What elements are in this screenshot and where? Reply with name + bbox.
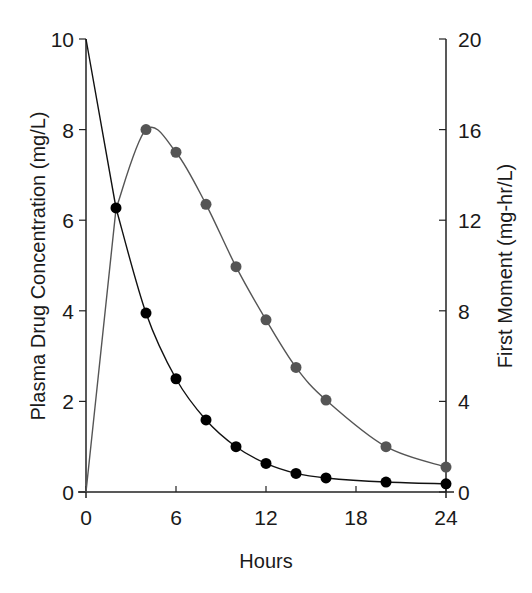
y-axis-title: Plasma Drug Concentration (mg/L) — [27, 111, 49, 420]
x-tick-label: 24 — [434, 506, 458, 529]
x-tick-label: 12 — [254, 506, 277, 529]
curves — [86, 39, 446, 492]
first-moment-point — [321, 395, 332, 406]
first-moment-point — [261, 314, 272, 325]
data-markers — [111, 124, 452, 489]
concentration-point — [321, 472, 332, 483]
x-tick-label: 6 — [170, 506, 182, 529]
first-moment-point — [141, 124, 152, 135]
concentration-point — [381, 477, 392, 488]
y2-tick-label: 0 — [458, 481, 470, 504]
y-tick-label: 0 — [62, 481, 74, 504]
concentration-point — [291, 468, 302, 479]
axes — [78, 39, 454, 498]
first-moment-point — [381, 441, 392, 452]
concentration-point — [111, 202, 122, 213]
concentration-point — [141, 308, 152, 319]
x-tick-label: 18 — [344, 506, 367, 529]
concentration-curve — [86, 39, 446, 484]
first-moment-point — [291, 362, 302, 373]
y2-tick-label: 8 — [458, 300, 470, 323]
concentration-point — [261, 458, 272, 469]
first-moment-point — [171, 147, 182, 158]
y2-tick-label: 4 — [458, 390, 470, 413]
y-tick-label: 4 — [62, 300, 74, 323]
x-axis-title: Hours — [239, 550, 292, 572]
concentration-point — [201, 414, 212, 425]
y2-axis-title: First Moment (mg-hr/L) — [494, 164, 516, 368]
y2-tick-label: 12 — [458, 209, 481, 232]
concentration-point — [231, 441, 242, 452]
concentration-point — [441, 478, 452, 489]
y2-tick-label: 16 — [458, 119, 481, 142]
tick-labels: 024681004812162006121824 — [51, 28, 482, 529]
x-tick-label: 0 — [80, 506, 92, 529]
pk-chart: 024681004812162006121824 Hours Plasma Dr… — [0, 0, 532, 593]
y-tick-label: 8 — [62, 119, 74, 142]
y2-tick-label: 20 — [458, 28, 481, 51]
first-moment-point — [441, 462, 452, 473]
y-tick-label: 2 — [62, 390, 74, 413]
y-tick-label: 6 — [62, 209, 74, 232]
y-tick-label: 10 — [51, 28, 74, 51]
concentration-point — [171, 373, 182, 384]
first-moment-curve — [86, 127, 446, 492]
first-moment-point — [231, 261, 242, 272]
first-moment-point — [201, 199, 212, 210]
